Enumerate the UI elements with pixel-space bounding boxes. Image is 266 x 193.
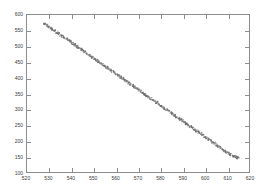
x-tick-top [94, 15, 95, 19]
y-tick-right [245, 158, 249, 159]
y-tick-right [245, 31, 249, 32]
plot-box [26, 14, 250, 173]
x-tick-label: 620 [246, 175, 254, 181]
x-tick [49, 168, 50, 172]
x-tick-top [161, 15, 162, 19]
x-tick-label: 540 [67, 175, 75, 181]
y-tick [27, 31, 31, 32]
y-tick-right [245, 47, 249, 48]
x-tick-label: 580 [156, 175, 164, 181]
x-tick-top [206, 15, 207, 19]
x-tick-label: 560 [111, 175, 119, 181]
x-tick [229, 168, 230, 172]
x-tick-label: 520 [22, 175, 30, 181]
x-tick-top [184, 15, 185, 19]
x-tick-label: 530 [44, 175, 52, 181]
y-tick [27, 95, 31, 96]
figure: 520530540550560570580590600610620 100150… [0, 0, 266, 193]
x-tick [139, 168, 140, 172]
x-tick-label: 590 [179, 175, 187, 181]
x-tick-label: 600 [201, 175, 209, 181]
data-series-scatter [27, 15, 249, 172]
x-tick-top [72, 15, 73, 19]
x-tick [184, 168, 185, 172]
x-tick [206, 168, 207, 172]
x-tick-top [49, 15, 50, 19]
y-tick-right [245, 63, 249, 64]
x-tick [72, 168, 73, 172]
x-tick [94, 168, 95, 172]
y-tick [27, 126, 31, 127]
y-tick [27, 142, 31, 143]
y-tick [27, 110, 31, 111]
x-tick-top [139, 15, 140, 19]
y-tick [27, 63, 31, 64]
y-tick [27, 47, 31, 48]
y-tick-right [245, 142, 249, 143]
y-tick-right [245, 95, 249, 96]
x-tick-label: 610 [223, 175, 231, 181]
y-tick-right [245, 126, 249, 127]
x-tick [117, 168, 118, 172]
y-tick-right [245, 79, 249, 80]
x-tick-label: 570 [134, 175, 142, 181]
x-tick-top [117, 15, 118, 19]
y-tick [27, 79, 31, 80]
x-tick [161, 168, 162, 172]
y-tick [27, 158, 31, 159]
x-tick-top [229, 15, 230, 19]
x-tick-label: 550 [89, 175, 97, 181]
plot-area [27, 15, 249, 172]
y-tick-right [245, 110, 249, 111]
